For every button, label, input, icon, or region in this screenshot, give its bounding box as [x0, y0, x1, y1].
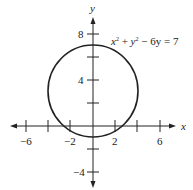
- x-axis-right-arrow-icon: [169, 124, 176, 129]
- circle-graph: x y −6 −2 2 6 8 4 −4 x2 + y2 − 6y = 7: [0, 0, 193, 190]
- x-tick-label-2: 2: [112, 135, 118, 147]
- x-axis-label: x: [180, 120, 186, 132]
- x-tick-label-neg2: −2: [64, 135, 76, 147]
- equation-label: x2 + y2 − 6y = 7: [110, 35, 179, 47]
- y-axis-up-arrow-icon: [91, 17, 96, 24]
- y-axis-label: y: [89, 2, 95, 14]
- x-axis-left-arrow-icon: [10, 124, 17, 129]
- y-axis-down-arrow-icon: [91, 181, 96, 188]
- y-tick-label-8: 8: [78, 28, 84, 40]
- y-tick-label-4: 4: [78, 74, 84, 86]
- x-tick-label-neg6: −6: [20, 135, 32, 147]
- x-tick-label-6: 6: [157, 135, 163, 147]
- y-tick-label-neg4: −4: [73, 166, 85, 178]
